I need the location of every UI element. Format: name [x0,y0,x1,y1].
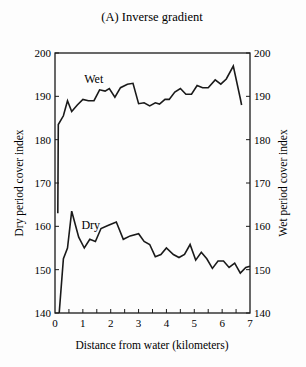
x-tick-label: 6 [219,317,225,329]
plot-border [55,53,250,313]
y-tick-label-left: 150 [35,264,52,276]
series-line-wet [58,66,242,213]
x-tick-label: 0 [52,317,58,329]
y-tick-label-left: 160 [35,220,52,232]
y-tick-label-right: 140 [254,307,271,319]
plot-frame [55,53,250,313]
y-tick-label-left: 140 [35,307,52,319]
y-tick-label-right: 180 [254,134,271,146]
chart: (A) Inverse gradient 1401401501501601601… [0,0,306,367]
x-tick-label: 2 [108,317,114,329]
x-tick-label: 5 [192,317,198,329]
y-tick-label-right: 170 [254,177,271,189]
x-tick-label: 1 [80,317,86,329]
y-tick-label-right: 160 [254,220,271,232]
y-tick-label-right: 200 [254,47,271,59]
y-tick-label-right: 150 [254,264,271,276]
series-label-wet: Wet [84,72,104,86]
y-tick-label-left: 190 [35,90,52,102]
y-axis-label-right: Wet period cover index [277,129,290,237]
chart-title: (A) Inverse gradient [101,10,203,24]
y-axis-label-left: Dry period cover index [13,129,26,236]
series-lines: WetDry [58,66,250,313]
x-tick-label: 7 [247,317,253,329]
axis-ticks: 1401401501501601601701701801801901902002… [35,47,272,329]
y-tick-label-left: 200 [35,47,52,59]
x-tick-label: 4 [164,317,170,329]
y-tick-label-left: 180 [35,134,52,146]
y-tick-label-right: 190 [254,90,271,102]
series-label-dry: Dry [81,218,100,232]
x-axis-label: Distance from water (kilometers) [76,339,229,352]
x-tick-label: 3 [136,317,142,329]
y-tick-label-left: 170 [35,177,52,189]
